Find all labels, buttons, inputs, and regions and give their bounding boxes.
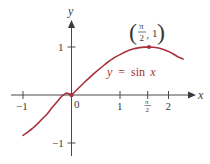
x-axis-label: x [197,88,204,102]
chart-canvas: x y −1 0 1 π 2 2 1 −1 [0,0,210,164]
peak-annotation: ( π 2 , 1 ) [129,19,165,45]
x-tick-label-1: 1 [117,100,123,112]
sine-curve [23,47,183,135]
y-tick-label-neg1: −1 [52,137,64,149]
x-tick-label-pi-over-2: π 2 [145,98,152,114]
peak-point [147,45,151,49]
svg-text:,: , [147,29,150,40]
curve-label: y = sin x [106,65,156,79]
origin-label: 0 [74,98,80,110]
svg-text:2: 2 [146,106,150,114]
svg-text:π: π [139,21,144,31]
sine-graph: x y −1 0 1 π 2 2 1 −1 [0,0,210,164]
svg-text:): ) [157,19,165,45]
svg-text:(: ( [129,19,137,45]
origin-point [69,93,73,97]
y-axis-label: y [67,4,74,18]
y-tick-label-1: 1 [58,41,64,53]
x-axis-arrow-icon [188,92,196,99]
svg-text:2: 2 [140,33,145,43]
y-axis-arrow-icon [68,20,75,28]
x-tick-label-2: 2 [166,100,172,112]
x-tick-label-neg1: −1 [16,100,28,112]
